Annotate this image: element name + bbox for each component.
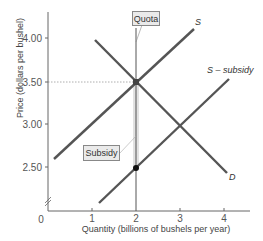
supply-label: S — [195, 17, 201, 27]
svg-text:1: 1 — [89, 213, 95, 224]
supply-curve — [54, 29, 194, 159]
x-axis-label: Quantity (billions of bushels per year) — [82, 224, 231, 234]
svg-text:2.50: 2.50 — [23, 162, 43, 173]
svg-text:2: 2 — [133, 213, 139, 224]
supply-minus-subsidy-label: S – subsidy — [207, 65, 254, 75]
subsidy-point — [133, 165, 139, 171]
svg-text:0: 0 — [38, 214, 44, 225]
chart-canvas: 4.00 3.50 3.00 2.50 0 1 2 3 4 Quantity (… — [0, 0, 263, 241]
quota-label-box: Quota — [132, 11, 160, 26]
svg-text:4.00: 4.00 — [23, 33, 43, 44]
y-axis-label: Price (dollars per bushel) — [15, 18, 25, 118]
svg-text:3.50: 3.50 — [23, 77, 43, 88]
svg-text:3.00: 3.00 — [23, 119, 43, 130]
svg-text:4: 4 — [221, 213, 227, 224]
subsidy-label-box: Subsidy — [83, 145, 120, 161]
demand-label: D — [229, 172, 236, 182]
svg-text:3: 3 — [177, 213, 183, 224]
quota-price-point — [133, 79, 139, 85]
